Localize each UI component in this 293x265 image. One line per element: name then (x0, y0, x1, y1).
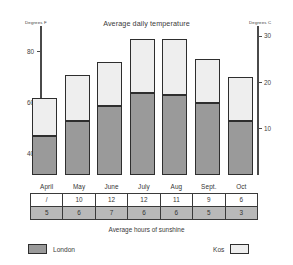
table-month-label: Sept. (193, 180, 225, 194)
right-tick-label: 20 (264, 79, 271, 86)
table-cell: / (31, 194, 63, 207)
bar-group-sept (195, 59, 220, 175)
right-tick-mark (259, 128, 263, 129)
bar-segment-london (130, 93, 155, 175)
bar-group-aug (162, 39, 187, 175)
bar-segment-kos (195, 59, 220, 103)
table-cell: 6 (160, 207, 192, 220)
bar-segment-london (32, 136, 57, 175)
bar-group-oct (228, 77, 253, 175)
left-tick-mark (37, 51, 41, 52)
plot-area: 406080 102030 (0, 0, 293, 175)
temperature-chart-figure: Average daily temperature Degrees F Degr… (0, 0, 293, 265)
table-cell: 6 (63, 207, 95, 220)
legend-label-london: London (53, 246, 75, 253)
table-cell: 7 (95, 207, 127, 220)
bar-segment-kos (162, 39, 187, 96)
legend-label-kos: Kos (213, 246, 224, 253)
table-cell: 12 (128, 194, 160, 207)
table-cell: 6 (225, 194, 257, 207)
table-cell: 5 (193, 207, 225, 220)
bar-segment-kos (130, 39, 155, 93)
bar-segment-london (228, 121, 253, 175)
table-month-label: Aug (160, 180, 192, 194)
table-cell: 11 (160, 194, 192, 207)
right-tick-mark (259, 82, 263, 83)
bar-segment-london (97, 106, 122, 175)
table-month-header-row: AprilMayJuneJulyAugSept.Oct (31, 180, 258, 194)
right-tick-label: 10 (264, 125, 271, 132)
bar-group-may (65, 75, 90, 175)
table-cell: 9 (193, 194, 225, 207)
chart-legend: London Kos (0, 243, 293, 261)
right-tick-label: 30 (264, 32, 271, 39)
table-row: 5676653 (31, 207, 258, 220)
sunshine-table: AprilMayJuneJulyAugSept.Oct /1012121196 … (30, 180, 258, 220)
bar-segment-london (65, 121, 90, 175)
legend-item-kos: Kos (213, 244, 249, 254)
left-tick-label: 80 (27, 48, 34, 55)
table-caption: Average hours of sunshine (0, 226, 293, 233)
table-cell: 5 (31, 207, 63, 220)
bar-segment-london (162, 95, 187, 175)
bar-segment-kos (228, 77, 253, 121)
table-cell: 12 (95, 194, 127, 207)
table-cell: 10 (63, 194, 95, 207)
table-month-label: July (128, 180, 160, 194)
table-month-label: June (95, 180, 127, 194)
legend-item-london: London (28, 244, 75, 254)
table-cell: 3 (225, 207, 257, 220)
bar-group-july (130, 39, 155, 175)
legend-swatch-kos-icon (230, 244, 249, 254)
table-month-label: May (63, 180, 95, 194)
right-tick-mark (259, 36, 263, 37)
bar-segment-kos (65, 75, 90, 121)
legend-swatch-london-icon (28, 244, 47, 254)
bar-segment-kos (97, 62, 122, 106)
table-month-label: April (31, 180, 63, 194)
table-month-label: Oct (225, 180, 257, 194)
bar-group-april (32, 98, 57, 175)
table-row: /1012121196 (31, 194, 258, 207)
bar-segment-london (195, 103, 220, 175)
table-cell: 6 (128, 207, 160, 220)
right-axis-line (257, 26, 259, 175)
bar-group-june (97, 62, 122, 175)
bar-segment-kos (32, 98, 57, 137)
